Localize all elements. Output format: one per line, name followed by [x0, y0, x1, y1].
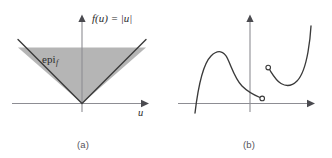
y-axis-arrow-b	[246, 15, 253, 23]
epigraph-label-text: epi	[42, 53, 55, 65]
y-axis-arrow-a	[78, 15, 85, 23]
open-circle-right-branch-start	[266, 65, 271, 70]
panel-b-plot	[166, 0, 332, 158]
panel-a-caption: (a)	[0, 139, 166, 150]
epigraph-label-subscript: f	[55, 58, 58, 67]
x-axis-arrow-b	[307, 100, 315, 107]
panel-b-caption: (b)	[166, 139, 332, 150]
right-branch-curve	[270, 26, 312, 85]
panel-a-y-axis-label: f(u) = |u|	[92, 13, 132, 24]
panel-a: f(u) = |u| u epif (a)	[0, 0, 166, 158]
panel-a-x-axis-label: u	[138, 108, 143, 119]
panel-a-plot	[0, 0, 166, 158]
epigraph-label: epif	[42, 54, 58, 67]
figure-root: f(u) = |u| u epif (a) f(u) u (b)	[0, 0, 332, 158]
panel-b: f(u) u (b)	[166, 0, 332, 158]
open-circle-left-branch-end	[260, 96, 265, 101]
